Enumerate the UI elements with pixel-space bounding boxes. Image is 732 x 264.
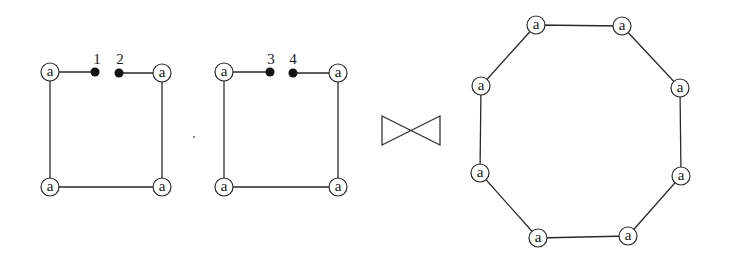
svg-text:a: a [677,79,684,95]
svg-text:a: a [535,229,542,245]
node-R8: a [472,77,490,95]
svg-text:a: a [47,178,54,194]
node-L3: a [41,178,59,196]
node-R4: a [672,167,690,185]
result-graph: a a a a a a a a [471,16,690,247]
svg-text:a: a [678,167,685,183]
port-1-label: 1 [93,51,101,67]
node-L4: a [153,178,171,196]
node-R7: a [471,164,489,182]
octagon-edges [480,25,681,238]
svg-text:a: a [533,16,540,32]
port-3-dot [266,68,275,77]
svg-text:a: a [625,227,632,243]
svg-text:a: a [335,64,342,80]
port-3-label: 3 [267,51,275,67]
svg-text:a: a [221,178,228,194]
node-L1: a [41,63,59,81]
port-2-label: 2 [116,51,124,67]
node-M3: a [215,178,233,196]
node-R3: a [671,79,689,97]
node-R2: a [613,17,631,35]
middle-graph: 3 4 a a a a [215,51,347,196]
node-M1: a [215,63,233,81]
diagram-canvas: 1 2 a a a a 3 4 a [0,0,732,264]
svg-text:a: a [477,164,484,180]
svg-text:a: a [335,178,342,194]
port-4-label: 4 [289,51,297,67]
svg-text:a: a [221,63,228,79]
node-M4: a [329,178,347,196]
node-R6: a [529,229,547,247]
port-2-dot [115,69,124,78]
svg-text:a: a [159,178,166,194]
node-M2: a [329,64,347,82]
node-R1: a [527,16,545,34]
left-graph: 1 2 a a a a [41,51,171,196]
svg-text:a: a [478,77,485,93]
node-L2: a [153,64,171,82]
scan-speck [193,136,195,138]
port-4-dot [289,69,298,78]
svg-text:a: a [159,64,166,80]
bowtie-join-icon [382,116,440,145]
node-R5: a [619,227,637,245]
port-1-dot [91,68,100,77]
svg-text:a: a [619,17,626,33]
svg-text:a: a [47,63,54,79]
